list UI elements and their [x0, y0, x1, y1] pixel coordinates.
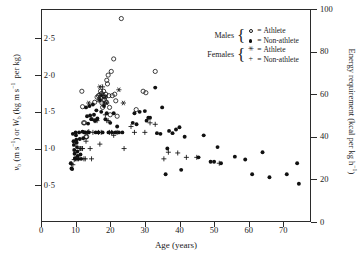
secondary-y-axis-tick: [311, 52, 317, 53]
legend: Males{=Athlete=Non-athleteFemales{✳=Athl…: [196, 26, 299, 64]
legend-plus-icon: +: [246, 55, 255, 63]
x-axis-tick-label: 20: [95, 225, 125, 235]
legend-open-circle-icon: [246, 26, 255, 36]
secondary-y-axis-tick: [311, 137, 317, 138]
secondary-y-axis-tick-label: 40: [320, 132, 346, 140]
secondary-y-axis-tick: [311, 222, 317, 223]
x-axis-title: Age (years): [41, 240, 311, 250]
legend-item: +=Non-athlete: [246, 55, 299, 65]
legend-item-label: Non-athlete: [263, 55, 298, 65]
legend-star-icon: ✳: [246, 46, 255, 53]
x-axis-tick-label: 0: [26, 225, 56, 235]
legend-item: =Athlete: [246, 26, 299, 36]
legend-item: =Non-athlete: [246, 36, 299, 46]
legend-group-label: Females: [196, 50, 237, 60]
x-axis-tick-label: 70: [268, 225, 298, 235]
legend-rows: ✳=Athlete+=Non-athlete: [246, 45, 299, 64]
secondary-y-axis-tick: [311, 9, 317, 10]
legend-brace: {: [237, 27, 245, 44]
legend-group-label: Males: [196, 31, 237, 41]
legend-group: Males{=Athlete=Non-athlete: [196, 26, 299, 45]
legend-filled-circle-icon: [246, 36, 255, 46]
legend-group: Females{✳=Athlete+=Non-athlete: [196, 45, 299, 64]
secondary-y-axis-tick-label: 0: [320, 218, 346, 226]
legend-item-label: Non-athlete: [263, 36, 298, 46]
x-axis-tick-label: 30: [130, 225, 160, 235]
secondary-y-axis-tick: [311, 179, 317, 180]
legend-brace: {: [237, 46, 245, 63]
secondary-y-axis-tick-label: 80: [320, 47, 346, 55]
y-axis-title: vb (m s−1) or Wb (kg m s−1 per kg): [10, 12, 23, 212]
legend-item: ✳=Athlete: [246, 45, 299, 55]
legend-rows: =Athlete=Non-athlete: [246, 26, 299, 45]
legend-item-label: Athlete: [263, 26, 285, 36]
legend-equals-sign: =: [255, 36, 263, 46]
secondary-y-axis-tick-label: 60: [320, 90, 346, 98]
x-axis-tick-label: 40: [165, 225, 195, 235]
legend-item-label: Athlete: [263, 45, 285, 55]
secondary-y-axis-tick-label: 20: [320, 175, 346, 183]
x-axis-tick-label: 10: [61, 225, 91, 235]
secondary-y-axis-tick-label: 100: [320, 5, 346, 13]
legend-equals-sign: =: [255, 55, 263, 65]
x-axis-tick-label: 60: [234, 225, 264, 235]
legend-equals-sign: =: [255, 26, 263, 36]
secondary-y-axis-tick: [311, 94, 317, 95]
x-axis-tick-label: 50: [199, 225, 229, 235]
legend-equals-sign: =: [255, 45, 263, 55]
secondary-y-axis-title: Energy requirement (kcal per kg h−1): [348, 11, 358, 211]
